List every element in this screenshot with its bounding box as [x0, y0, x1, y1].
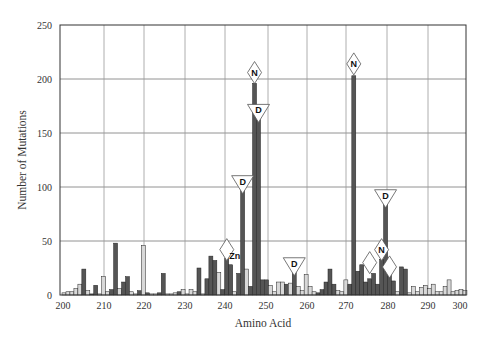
bar: [332, 284, 336, 295]
y-axis-label: Number of Mutations: [16, 110, 28, 210]
bar: [78, 284, 82, 295]
bar: [161, 273, 165, 295]
bar: [372, 273, 376, 295]
bar: [137, 291, 141, 295]
bar: [114, 243, 118, 295]
x-tick-label: 260: [300, 300, 315, 311]
bar: [431, 284, 435, 295]
marker-label: N: [351, 59, 358, 69]
bar: [122, 282, 126, 295]
bar: [320, 290, 324, 295]
x-tick-label: 230: [178, 300, 193, 311]
x-tick-label: 220: [137, 300, 152, 311]
bar: [364, 282, 368, 295]
bar: [280, 282, 284, 295]
x-tick-label: 250: [259, 300, 274, 311]
bar: [296, 286, 300, 295]
gridlines: [60, 25, 466, 295]
bar: [308, 286, 312, 295]
bar: [411, 286, 415, 295]
bar: [181, 290, 185, 295]
bar: [82, 269, 86, 295]
x-axis-ticks: 200210220230240250260270280290300: [56, 300, 468, 311]
bar: [225, 258, 229, 295]
y-tick-label: 150: [37, 128, 52, 139]
bar: [356, 271, 360, 295]
bar: [221, 290, 225, 295]
bar: [419, 287, 423, 295]
bar: [380, 259, 384, 295]
bar: [237, 273, 241, 295]
bar: [86, 291, 90, 295]
x-axis-label: Amino Acid: [235, 317, 292, 329]
bar: [284, 284, 288, 295]
bar: [324, 282, 328, 295]
y-tick-label: 200: [37, 74, 52, 85]
bar: [268, 285, 272, 295]
x-tick-label: 270: [339, 300, 354, 311]
bar: [110, 290, 114, 295]
bar: [403, 269, 407, 295]
x-tick-label: 290: [421, 300, 436, 311]
bar: [74, 289, 78, 295]
bar: [118, 289, 122, 295]
x-tick-label: 240: [218, 300, 233, 311]
y-tick-label: 250: [37, 20, 52, 31]
bar: [257, 106, 261, 295]
bar: [352, 76, 356, 295]
bar: [94, 285, 98, 295]
bar: [328, 269, 332, 295]
bar: [392, 281, 396, 295]
bar: [141, 245, 145, 295]
marker-label: D: [239, 177, 246, 187]
marker-label: Zn: [229, 251, 240, 261]
bar: [102, 277, 106, 295]
mutation-bar-chart: NDDZnDNDN 050100150200250 20021022023024…: [0, 0, 489, 343]
bar: [197, 268, 201, 295]
bar: [399, 267, 403, 295]
marker-label: D: [255, 105, 262, 115]
bar: [264, 280, 268, 295]
bar: [213, 260, 217, 295]
bar: [241, 186, 245, 295]
diamond-marker: [363, 252, 377, 274]
y-tick-label: 50: [42, 236, 52, 247]
x-tick-label: 280: [381, 300, 396, 311]
bar: [229, 265, 233, 295]
bar: [376, 284, 380, 295]
bar: [443, 286, 447, 295]
bar: [126, 277, 130, 295]
bar: [336, 291, 340, 295]
bar: [427, 289, 431, 295]
bar: [423, 285, 427, 295]
bar: [217, 272, 221, 295]
annotations: NDDZnDNDN: [220, 53, 397, 278]
bar: [209, 256, 213, 295]
bar: [189, 290, 193, 295]
bar: [304, 274, 308, 295]
marker-label: D: [291, 259, 298, 269]
x-tick-label: 210: [97, 300, 112, 311]
y-tick-label: 0: [47, 290, 52, 301]
y-axis-ticks: 050100150200250: [37, 20, 52, 301]
x-tick-label: 200: [56, 300, 71, 311]
marker-label: N: [378, 245, 385, 255]
bar: [459, 290, 463, 295]
bar: [360, 265, 364, 295]
bar: [348, 284, 352, 295]
bar: [245, 269, 249, 295]
bar: [276, 282, 280, 295]
bar: [344, 280, 348, 295]
bar: [205, 279, 209, 295]
marker-label: D: [382, 191, 389, 201]
bar: [455, 291, 459, 295]
bar: [249, 286, 253, 295]
bar: [447, 280, 451, 295]
plot-frame: [60, 25, 466, 295]
bar: [300, 291, 304, 295]
y-tick-label: 100: [37, 182, 52, 193]
x-tick-label: 300: [453, 300, 468, 311]
bar: [261, 280, 265, 295]
marker-label: N: [251, 68, 258, 78]
bar: [288, 283, 292, 295]
